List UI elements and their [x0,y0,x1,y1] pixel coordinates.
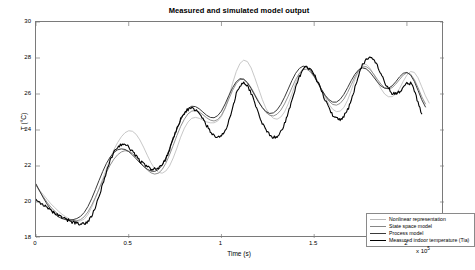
legend-color-swatch [370,226,386,227]
legend-color-swatch [370,240,386,241]
x-tick-label: 2 [394,240,418,246]
y-axis-title: T (°C) [20,87,27,157]
y-tick-label: 22 [9,162,31,168]
y-tick-label: 30 [9,18,31,24]
chart-title: Measured and simulated model output [35,6,443,15]
plot-svg [36,22,444,238]
x-tick-label: 0 [23,240,47,246]
y-tick-label: 28 [9,54,31,60]
x-axis-title: Time (s) [35,250,443,257]
legend-label: Nonlinear representation [389,216,446,223]
legend-color-swatch [370,219,386,220]
x-axis-exponent: x 105 [416,246,430,254]
legend-item[interactable]: Process model [369,230,472,237]
x-tick-label: 1.5 [301,240,325,246]
y-tick-label: 20 [9,198,31,204]
legend-label: State space model [389,223,432,230]
legend-item[interactable]: State space model [369,223,472,230]
x-tick-label: 1 [208,240,232,246]
legend-item[interactable]: Nonlinear representation [369,216,472,223]
x-exponent-power: 5 [427,246,430,251]
series-line [36,60,429,221]
legend-label: Process model [389,230,423,237]
legend-color-swatch [370,233,386,234]
x-exponent-base: x 10 [416,248,427,254]
x-tick-label: 0.5 [116,240,140,246]
legend-item[interactable]: Measured indoor temperature (Tia) [369,237,472,244]
plot-area: Nonlinear representation State space mod… [35,21,443,237]
legend-box[interactable]: Nonlinear representation State space mod… [366,213,475,247]
data-series-group [36,57,429,225]
axis-tick-marks [36,22,444,238]
